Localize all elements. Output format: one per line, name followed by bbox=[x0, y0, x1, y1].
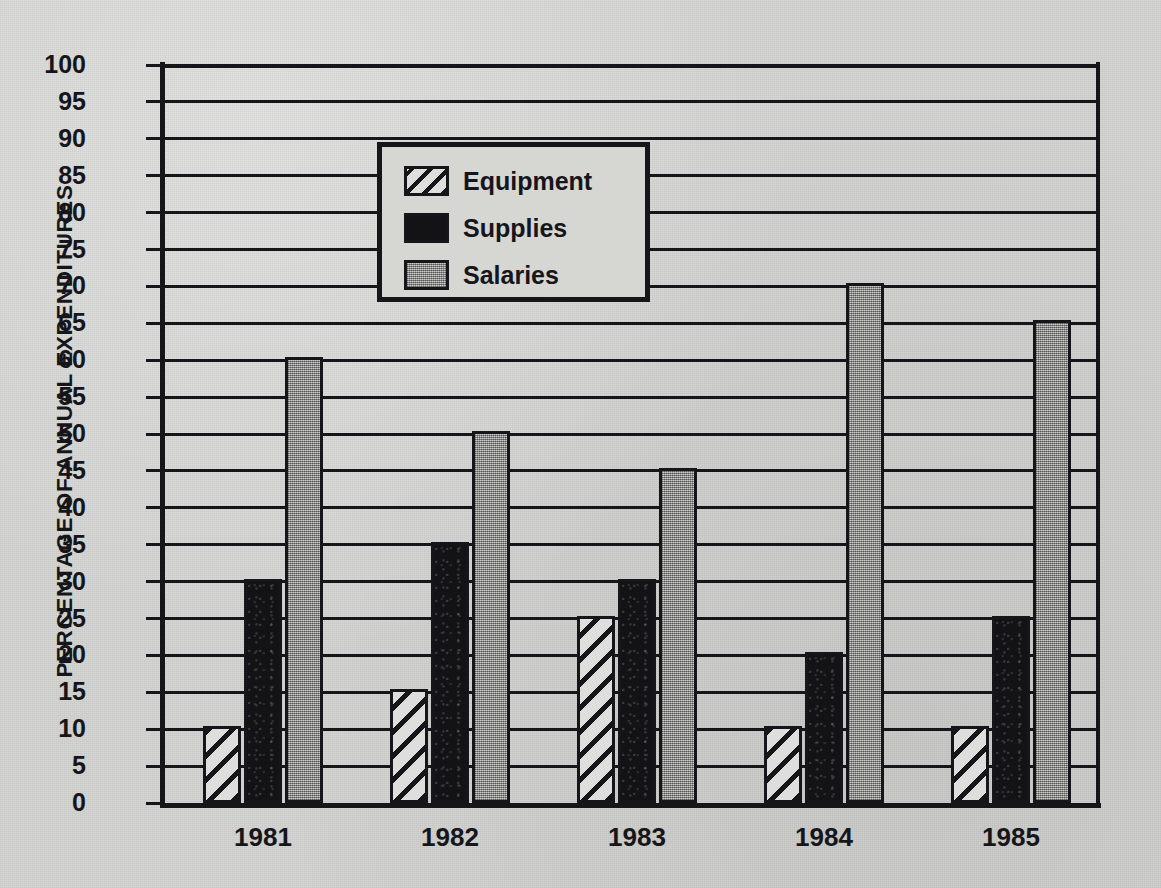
y-axis-tick-label: 50 bbox=[16, 421, 86, 446]
y-axis-tick bbox=[146, 506, 164, 509]
y-axis-tick bbox=[146, 137, 164, 140]
y-axis-tick bbox=[146, 469, 164, 472]
legend-item-supplies[interactable]: Supplies bbox=[404, 213, 567, 243]
x-axis: 19811982198319841985 bbox=[163, 806, 1098, 866]
bar-equipment-1982[interactable] bbox=[390, 689, 428, 803]
y-axis-tick-label: 20 bbox=[16, 642, 86, 667]
bar-supplies-1982[interactable] bbox=[431, 542, 469, 803]
y-axis-tick-label: 80 bbox=[16, 200, 86, 225]
supplies-swatch-icon bbox=[404, 213, 449, 243]
bar-supplies-1984[interactable] bbox=[805, 652, 843, 803]
y-axis-tick bbox=[146, 728, 164, 731]
y-axis-tick-label: 100 bbox=[16, 52, 86, 77]
y-axis-tick bbox=[146, 248, 164, 251]
y-axis-tick bbox=[146, 322, 164, 325]
bar-salaries-1983[interactable] bbox=[659, 468, 697, 803]
legend: Equipment Supplies Salaries bbox=[377, 142, 650, 302]
legend-label: Salaries bbox=[463, 261, 559, 290]
y-axis-tick bbox=[146, 285, 164, 288]
y-axis-tick-label: 55 bbox=[16, 384, 86, 409]
bar-group-1985 bbox=[911, 65, 1098, 803]
y-axis-tick bbox=[146, 433, 164, 436]
y-axis-tick-label: 70 bbox=[16, 273, 86, 298]
y-axis-tick bbox=[146, 617, 164, 620]
y-axis-tick-label: 10 bbox=[16, 716, 86, 741]
bar-group-1981 bbox=[163, 65, 350, 803]
y-axis-tick bbox=[146, 359, 164, 362]
y-axis-tick bbox=[146, 765, 164, 768]
bar-salaries-1982[interactable] bbox=[472, 431, 510, 803]
bar-equipment-1981[interactable] bbox=[203, 726, 241, 803]
y-axis-tick bbox=[146, 396, 164, 399]
y-axis-tick bbox=[146, 654, 164, 657]
bar-supplies-1983[interactable] bbox=[618, 579, 656, 803]
y-axis-tick bbox=[146, 100, 164, 103]
y-axis-tick bbox=[146, 211, 164, 214]
plot-area: 0510152025303540455055606570758085909510… bbox=[163, 65, 1098, 803]
x-axis-line bbox=[160, 803, 1101, 808]
legend-item-equipment[interactable]: Equipment bbox=[404, 166, 592, 196]
y-axis-tick-label: 60 bbox=[16, 347, 86, 372]
y-axis-tick-label: 75 bbox=[16, 237, 86, 262]
y-axis-tick-label: 85 bbox=[16, 163, 86, 188]
bar-group-1984 bbox=[724, 65, 911, 803]
y-axis-tick bbox=[146, 691, 164, 694]
bar-equipment-1985[interactable] bbox=[951, 726, 989, 803]
y-axis-tick-label: 45 bbox=[16, 458, 86, 483]
y-axis-tick-label: 90 bbox=[16, 126, 86, 151]
bar-equipment-1983[interactable] bbox=[577, 616, 615, 804]
y-axis-tick-label: 25 bbox=[16, 606, 86, 631]
y-axis-tick-label: 0 bbox=[16, 790, 86, 815]
bar-salaries-1984[interactable] bbox=[846, 283, 884, 803]
x-axis-tick-label: 1983 bbox=[557, 822, 717, 853]
bar-supplies-1981[interactable] bbox=[244, 579, 282, 803]
x-axis-tick-label: 1984 bbox=[744, 822, 904, 853]
equipment-swatch-icon bbox=[404, 166, 449, 196]
y-axis-tick bbox=[146, 64, 164, 67]
legend-label: Equipment bbox=[463, 167, 592, 196]
y-axis-tick-label: 35 bbox=[16, 532, 86, 557]
bar-supplies-1985[interactable] bbox=[992, 616, 1030, 804]
legend-label: Supplies bbox=[463, 214, 567, 243]
salaries-swatch-icon bbox=[404, 260, 449, 290]
legend-item-salaries[interactable]: Salaries bbox=[404, 260, 559, 290]
bar-salaries-1985[interactable] bbox=[1033, 320, 1071, 803]
bar-salaries-1981[interactable] bbox=[285, 357, 323, 803]
y-axis-tick-label: 40 bbox=[16, 495, 86, 520]
x-axis-tick-label: 1985 bbox=[931, 822, 1091, 853]
bar-chart: PERCENTAGE OF ANNUAL EXPENDITURES 051015… bbox=[0, 0, 1161, 888]
y-axis-tick bbox=[146, 543, 164, 546]
y-axis-tick bbox=[146, 174, 164, 177]
y-axis-tick-label: 5 bbox=[16, 753, 86, 778]
y-axis-tick bbox=[146, 580, 164, 583]
y-axis-tick-label: 30 bbox=[16, 569, 86, 594]
y-axis-tick-label: 15 bbox=[16, 679, 86, 704]
y-axis-tick-label: 95 bbox=[16, 89, 86, 114]
y-axis-tick-label: 65 bbox=[16, 310, 86, 335]
x-axis-tick-label: 1982 bbox=[370, 822, 530, 853]
x-axis-tick-label: 1981 bbox=[183, 822, 343, 853]
bar-equipment-1984[interactable] bbox=[764, 726, 802, 803]
